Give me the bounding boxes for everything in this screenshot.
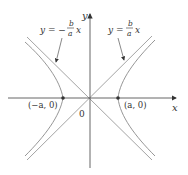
svg-text:x: x [76,25,81,35]
vertex-left-label: (−a, 0) [28,100,58,110]
vertex-right-dot [116,96,120,100]
asymptote-negative-label: y = − b a x [39,19,81,38]
x-axis-label: x [172,102,178,113]
origin-label: 0 [79,109,85,119]
vertex-right-label: (a, 0) [124,100,147,110]
hyperbola-diagram: y x 0 (−a, 0) (a, 0) y = − b a x y = b a… [0,0,188,175]
leader-positive [118,38,124,60]
vertex-left-dot [61,96,65,100]
leader-negative [56,38,62,62]
asymptote-positive-label: y = b a x [107,19,140,38]
svg-text:a: a [68,29,72,38]
svg-text:b: b [69,19,74,28]
svg-text:y = −: y = − [39,25,66,35]
hyperbola-left-branch [25,42,63,156]
y-axis-label: y [81,10,88,21]
svg-text:y =: y = [107,25,124,35]
svg-text:a: a [127,29,131,38]
svg-text:b: b [128,19,133,28]
svg-text:x: x [135,25,140,35]
